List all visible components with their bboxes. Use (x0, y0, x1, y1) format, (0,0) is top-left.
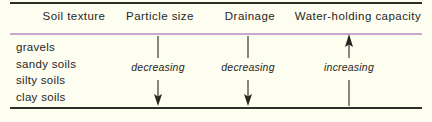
trend-label: increasing (299, 61, 399, 73)
trend-label: decreasing (198, 61, 298, 73)
soil-texture-trend-figure: Soil texture Particle size Drainage Wate… (0, 0, 432, 122)
trend-column-drainage: decreasing (198, 36, 298, 106)
column-header-row: Soil texture Particle size Drainage Wate… (0, 10, 432, 30)
column-header-water-holding-capacity: Water-holding capacity (290, 10, 426, 22)
top-rule (10, 2, 422, 4)
column-header-particle-size: Particle size (112, 10, 208, 22)
trend-column-water-holding-capacity: increasing (299, 36, 399, 106)
header-accent-rule (10, 33, 422, 35)
trend-label: decreasing (108, 61, 208, 73)
bottom-rule (10, 107, 422, 109)
column-header-drainage: Drainage (210, 10, 290, 22)
trend-column-particle-size: decreasing (108, 36, 208, 106)
